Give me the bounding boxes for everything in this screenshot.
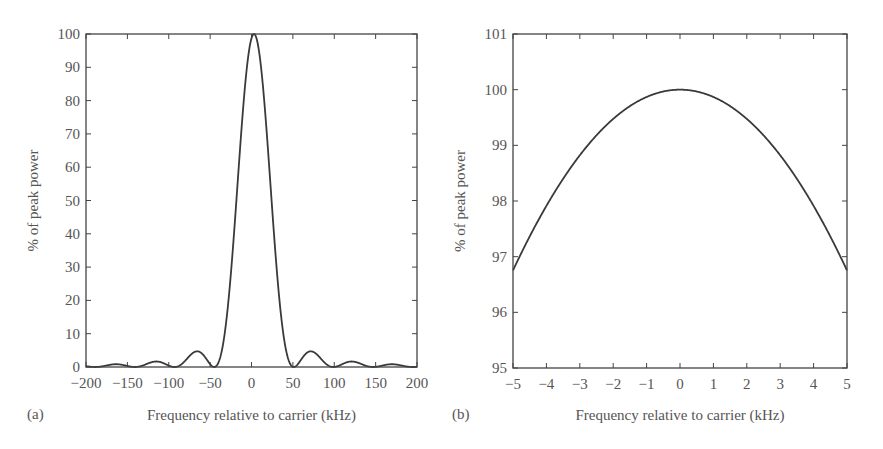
y-tick-label: 100 bbox=[485, 82, 508, 98]
y-tick-label: 80 bbox=[65, 93, 80, 109]
data-curve bbox=[86, 34, 417, 367]
x-axis-label: Frequency relative to carrier (kHz) bbox=[575, 407, 784, 424]
y-tick-label: 97 bbox=[492, 249, 508, 265]
x-tick-label: 4 bbox=[810, 376, 818, 392]
x-tick-label: 2 bbox=[743, 376, 751, 392]
x-tick-label: 1 bbox=[710, 376, 718, 392]
x-tick-label: −5 bbox=[505, 376, 521, 392]
x-tick-label: 150 bbox=[364, 375, 387, 391]
y-tick-label: 90 bbox=[65, 59, 80, 75]
y-tick-label: 98 bbox=[492, 193, 507, 209]
x-tick-label: 50 bbox=[285, 375, 300, 391]
chart-panel-b: −5−4−3−2−10123459596979899100101Frequenc… bbox=[440, 0, 883, 449]
y-tick-label: 100 bbox=[58, 26, 81, 42]
plot-frame bbox=[86, 34, 417, 367]
x-tick-label: 0 bbox=[676, 376, 684, 392]
x-tick-label: −150 bbox=[112, 375, 143, 391]
y-tick-label: 99 bbox=[492, 137, 507, 153]
y-axis-label: % of peak power bbox=[25, 149, 41, 251]
x-tick-label: 100 bbox=[323, 375, 346, 391]
y-tick-label: 96 bbox=[492, 304, 508, 320]
x-tick-label: −1 bbox=[639, 376, 655, 392]
x-tick-label: 3 bbox=[776, 376, 784, 392]
y-tick-label: 101 bbox=[485, 26, 508, 42]
x-tick-label: 5 bbox=[843, 376, 851, 392]
y-tick-label: 50 bbox=[65, 193, 80, 209]
y-tick-label: 95 bbox=[492, 360, 507, 376]
y-axis-label: % of peak power bbox=[452, 150, 468, 252]
y-tick-label: 20 bbox=[65, 292, 80, 308]
y-tick-label: 40 bbox=[65, 226, 80, 242]
data-curve bbox=[513, 90, 847, 271]
x-tick-label: −50 bbox=[198, 375, 221, 391]
panel-label: (b) bbox=[452, 406, 470, 423]
x-tick-label: −3 bbox=[572, 376, 588, 392]
x-tick-label: −200 bbox=[71, 375, 102, 391]
y-tick-label: 70 bbox=[65, 126, 80, 142]
y-tick-label: 60 bbox=[65, 159, 80, 175]
x-tick-label: 0 bbox=[248, 375, 256, 391]
x-tick-label: −2 bbox=[605, 376, 621, 392]
plot-frame bbox=[513, 34, 847, 368]
x-tick-label: −100 bbox=[153, 375, 184, 391]
x-tick-label: 200 bbox=[406, 375, 429, 391]
y-tick-label: 10 bbox=[65, 326, 80, 342]
chart-panel-a: −200−150−100−500501001502000102030405060… bbox=[0, 0, 440, 449]
x-tick-label: −4 bbox=[538, 376, 554, 392]
y-tick-label: 30 bbox=[65, 259, 80, 275]
panel-label: (a) bbox=[27, 406, 44, 423]
x-axis-label: Frequency relative to carrier (kHz) bbox=[147, 407, 356, 424]
chart-a-svg: −200−150−100−500501001502000102030405060… bbox=[0, 0, 440, 449]
chart-b-svg: −5−4−3−2−10123459596979899100101Frequenc… bbox=[440, 0, 883, 449]
y-tick-label: 0 bbox=[73, 359, 81, 375]
